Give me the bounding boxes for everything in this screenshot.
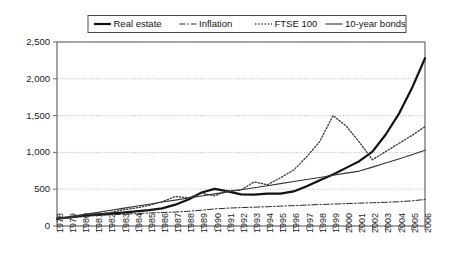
y-tick-label: 2,000	[26, 73, 50, 84]
x-tick-label: 1997	[305, 213, 315, 233]
x-tick-label: 2001	[357, 213, 367, 233]
legend-label-real-estate: Real estate	[114, 18, 162, 29]
x-tick-label: 1989	[199, 213, 209, 233]
x-tick-label: 2004	[397, 213, 407, 233]
x-axis-group: 1978197919801981198219831984198519861987…	[55, 213, 433, 233]
y-axis-group: 05001,0001,5002,0002,500	[26, 36, 57, 231]
x-tick-label: 2002	[370, 213, 380, 233]
x-tick-label: 2003	[383, 213, 393, 233]
x-tick-label: 1982	[107, 213, 117, 233]
x-tick-label: 1991	[226, 213, 236, 233]
y-tick-label: 500	[34, 183, 50, 194]
x-tick-label: 1978	[55, 213, 65, 233]
x-tick-label: 1990	[213, 213, 223, 233]
x-tick-label: 1985	[147, 213, 157, 233]
plot-border-group	[57, 42, 425, 226]
y-tick-label: 1,500	[26, 110, 50, 121]
series-line-10-year-bonds	[57, 150, 425, 218]
x-tick-label: 1998	[318, 213, 328, 233]
chart-canvas: 05001,0001,5002,0002,500 197819791980198…	[0, 0, 462, 276]
line-chart: 05001,0001,5002,0002,500 197819791980198…	[0, 0, 462, 276]
chart-legend: Real estateInflationFTSE 10010-year bond…	[88, 16, 406, 33]
x-tick-label: 1995	[278, 213, 288, 233]
x-tick-label: 1992	[239, 213, 249, 233]
legend-label-inflation: Inflation	[199, 18, 232, 29]
y-tick-label: 1,000	[26, 146, 50, 157]
x-tick-label: 1986	[160, 213, 170, 233]
legend-label-ftse-100: FTSE 100	[275, 18, 318, 29]
x-tick-label: 1994	[265, 213, 275, 233]
x-tick-label: 2006	[423, 213, 433, 233]
x-tick-label: 1988	[186, 213, 196, 233]
x-tick-label: 1984	[134, 213, 144, 233]
x-tick-label: 1983	[121, 213, 131, 233]
y-tick-label: 0	[45, 220, 50, 231]
x-tick-label: 1996	[291, 213, 301, 233]
x-tick-label: 1987	[173, 213, 183, 233]
x-tick-label: 2000	[344, 213, 354, 233]
legend-label-10-year-bonds: 10-year bonds	[345, 18, 406, 29]
x-tick-label: 2005	[410, 213, 420, 233]
gridlines-group	[57, 42, 425, 226]
x-tick-label: 1999	[331, 213, 341, 233]
series-group	[57, 58, 425, 218]
series-line-real-estate	[57, 58, 425, 218]
x-tick-label: 1993	[252, 213, 262, 233]
y-tick-label: 2,500	[26, 36, 50, 47]
